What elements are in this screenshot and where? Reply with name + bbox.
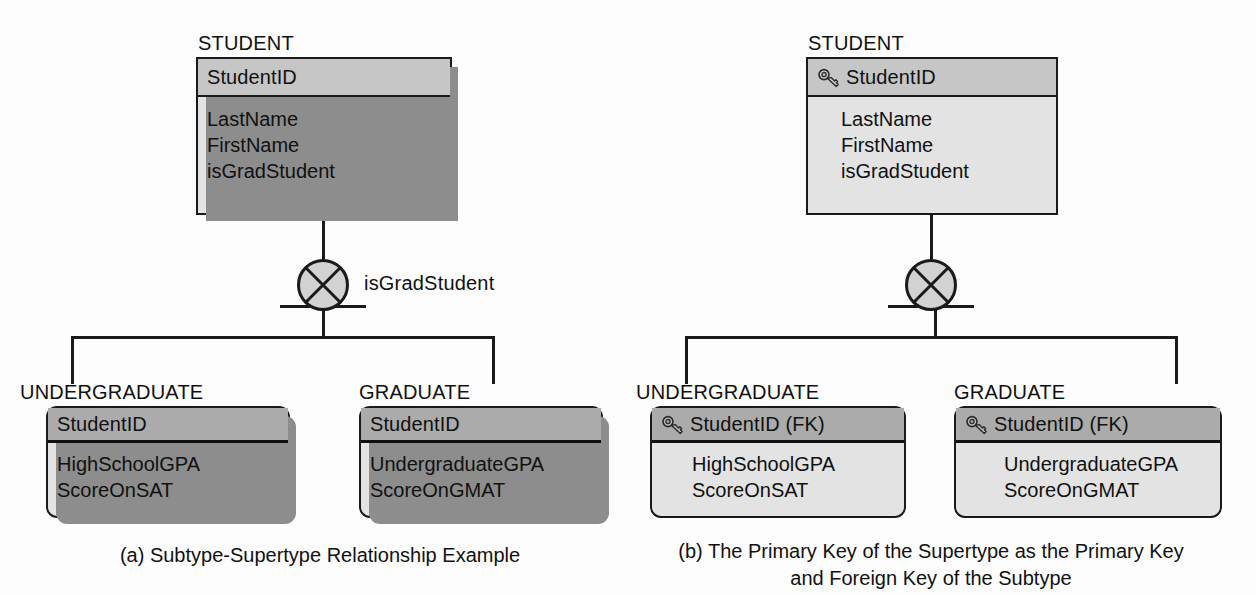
pk-attribute-label: StudentID	[370, 413, 460, 436]
entity-box-graduate-b[interactable]: StudentID (FK) UndergraduateGPA ScoreOnG…	[954, 406, 1222, 518]
entity-header-undergraduate-b: StudentID (FK)	[652, 408, 904, 443]
key-icon	[817, 68, 841, 88]
entity-header-graduate-a: StudentID	[361, 408, 601, 443]
entity-box-undergraduate-b[interactable]: StudentID (FK) HighSchoolGPA ScoreOnSAT	[650, 406, 906, 518]
entity-box-undergraduate-a[interactable]: StudentID HighSchoolGPA ScoreOnSAT	[46, 406, 290, 518]
attribute-lastname: LastName	[207, 106, 450, 132]
key-icon	[965, 415, 989, 435]
attribute-undergraduategpa: UndergraduateGPA	[1004, 451, 1220, 477]
attribute-lastname: LastName	[841, 106, 1056, 132]
subtype-branch-bar-b	[685, 336, 1178, 339]
connector-supertype-to-discriminator-a	[322, 215, 325, 260]
pk-attribute-label: StudentID (FK)	[994, 413, 1129, 436]
er-diagram-figure: STUDENT StudentID LastName FirstName isG…	[0, 0, 1256, 595]
subtype-branch-bar-a	[71, 336, 495, 339]
attribute-isgradstudent: isGradStudent	[841, 158, 1056, 184]
branch-leg-undergraduate-b	[685, 336, 688, 384]
entity-title-undergraduate-a: UNDERGRADUATE	[20, 381, 203, 404]
entity-header-graduate-b: StudentID (FK)	[956, 408, 1220, 443]
entity-title-student-a: STUDENT	[198, 32, 294, 55]
entity-header-student-a: StudentID	[198, 59, 450, 97]
entity-attributes-undergraduate-a: HighSchoolGPA ScoreOnSAT	[48, 443, 288, 509]
attribute-firstname: FirstName	[841, 132, 1056, 158]
branch-leg-graduate-a	[492, 336, 495, 384]
entity-attributes-graduate-b: UndergraduateGPA ScoreOnGMAT	[956, 443, 1220, 509]
entity-attributes-graduate-a: UndergraduateGPA ScoreOnGMAT	[361, 443, 601, 509]
connector-supertype-to-discriminator-b	[930, 215, 933, 260]
exclusive-x-circle-icon-b	[904, 258, 958, 312]
attribute-scoreonsat: ScoreOnSAT	[692, 477, 904, 503]
entity-box-graduate-a[interactable]: StudentID UndergraduateGPA ScoreOnGMAT	[359, 406, 603, 518]
attribute-highschoolgpa: HighSchoolGPA	[692, 451, 904, 477]
entity-attributes-student-b: LastName FirstName isGradStudent	[808, 97, 1056, 190]
entity-header-student-b: StudentID	[808, 59, 1056, 97]
entity-box-student-a[interactable]: StudentID LastName FirstName isGradStude…	[196, 57, 452, 215]
branch-leg-graduate-b	[1175, 336, 1178, 384]
attribute-highschoolgpa: HighSchoolGPA	[57, 451, 288, 477]
entity-header-undergraduate-a: StudentID	[48, 408, 288, 443]
pk-attribute-label: StudentID	[207, 66, 297, 89]
entity-box-student-b[interactable]: StudentID LastName FirstName isGradStude…	[806, 57, 1058, 215]
entity-title-graduate-b: GRADUATE	[954, 381, 1065, 404]
entity-attributes-student-a: LastName FirstName isGradStudent	[198, 97, 450, 190]
entity-title-graduate-a: GRADUATE	[359, 381, 470, 404]
attribute-scoreonsat: ScoreOnSAT	[57, 477, 288, 503]
attribute-scoreongmat: ScoreOnGMAT	[370, 477, 601, 503]
entity-title-undergraduate-b: UNDERGRADUATE	[636, 381, 819, 404]
entity-attributes-undergraduate-b: HighSchoolGPA ScoreOnSAT	[652, 443, 904, 509]
attribute-undergraduategpa: UndergraduateGPA	[370, 451, 601, 477]
key-icon	[661, 415, 685, 435]
attribute-scoreongmat: ScoreOnGMAT	[1004, 477, 1220, 503]
entity-title-student-b: STUDENT	[808, 32, 904, 55]
attribute-firstname: FirstName	[207, 132, 450, 158]
exclusive-x-circle-icon-a	[296, 258, 350, 312]
pk-attribute-label: StudentID (FK)	[690, 413, 825, 436]
panel-caption-b: (b) The Primary Key of the Supertype as …	[636, 538, 1226, 592]
panel-caption-a: (a) Subtype-Supertype Relationship Examp…	[40, 542, 600, 569]
pk-attribute-label: StudentID	[846, 66, 936, 89]
discriminator-label-a: isGradStudent	[364, 272, 494, 295]
pk-attribute-label: StudentID	[57, 413, 147, 436]
attribute-isgradstudent: isGradStudent	[207, 158, 450, 184]
branch-leg-undergraduate-a	[71, 336, 74, 384]
